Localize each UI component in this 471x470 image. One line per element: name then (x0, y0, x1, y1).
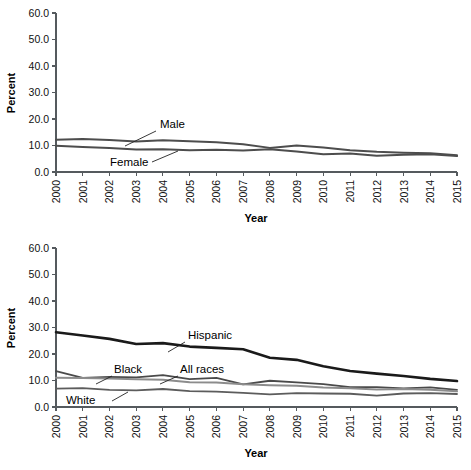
x-tick-label: 2014 (424, 180, 436, 204)
x-tick-label: 2015 (451, 180, 463, 204)
x-tick-label: 2000 (50, 415, 62, 439)
series-label-all-races: All races (180, 363, 224, 375)
x-tick-label: 2007 (237, 415, 249, 439)
x-tick-label: 2011 (344, 415, 356, 438)
x-tick-label: 2010 (317, 180, 329, 204)
chart-panel-by-sex: 0.010.020.030.040.050.060.02000200120022… (0, 0, 471, 235)
x-tick-label: 2004 (157, 180, 169, 204)
figure-two-line-charts: 0.010.020.030.040.050.060.02000200120022… (0, 0, 471, 470)
leader-line-white (112, 392, 128, 401)
x-tick-label: 2006 (210, 415, 222, 439)
x-tick-label: 2004 (157, 415, 169, 439)
x-tick-label: 2005 (184, 415, 196, 439)
x-tick-label: 2011 (344, 180, 356, 203)
x-tick-label: 2010 (317, 415, 329, 439)
x-axis-title: Year (244, 447, 268, 459)
x-tick-label: 2009 (291, 180, 303, 204)
x-tick-label: 2014 (424, 415, 436, 439)
series-line-male (56, 139, 457, 155)
series-group-top (56, 139, 457, 156)
y-tick-label: 50.0 (29, 33, 50, 45)
leader-line-female (152, 151, 178, 162)
x-tick-label: 2003 (130, 415, 142, 439)
x-tick-label: 2008 (264, 180, 276, 204)
x-tick-label: 2002 (103, 415, 115, 439)
axes-bottom: 0.010.020.030.040.050.060.02000200120022… (29, 242, 463, 439)
y-tick-label: 30.0 (29, 86, 50, 98)
x-tick-label: 2006 (210, 180, 222, 204)
series-label-female: Female (110, 156, 148, 168)
series-line-female (56, 146, 457, 156)
x-tick-label: 2012 (371, 180, 383, 204)
y-tick-label: 40.0 (29, 60, 50, 72)
x-axis-title: Year (244, 212, 268, 224)
leader-line-male (125, 131, 156, 146)
x-tick-label: 2000 (50, 180, 62, 204)
y-tick-label: 50.0 (29, 268, 50, 280)
annotation-group-bottom: HispanicBlackAll racesWhite (66, 329, 232, 406)
y-tick-label: 30.0 (29, 321, 50, 333)
series-label-black: Black (114, 363, 142, 375)
y-tick-label: 0.0 (34, 401, 49, 413)
y-tick-label: 40.0 (29, 295, 50, 307)
x-tick-label: 2001 (77, 415, 89, 439)
y-tick-label: 0.0 (34, 166, 49, 178)
y-tick-label: 10.0 (29, 139, 50, 151)
chart-panel-by-race: 0.010.020.030.040.050.060.02000200120022… (0, 235, 471, 470)
chart-svg-by-sex: 0.010.020.030.040.050.060.02000200120022… (0, 0, 471, 235)
y-tick-label: 60.0 (29, 7, 50, 19)
annotation-group-top: MaleFemale (110, 118, 185, 168)
x-tick-label: 2003 (130, 180, 142, 204)
y-tick-label: 20.0 (29, 348, 50, 360)
x-tick-label: 2001 (77, 180, 89, 204)
y-tick-label: 60.0 (29, 242, 50, 254)
series-label-male: Male (160, 118, 185, 130)
x-tick-label: 2002 (103, 180, 115, 204)
chart-svg-by-race: 0.010.020.030.040.050.060.02000200120022… (0, 235, 471, 470)
series-label-white: White (66, 394, 95, 406)
x-tick-label: 2008 (264, 415, 276, 439)
x-tick-label: 2007 (237, 180, 249, 204)
x-tick-label: 2013 (398, 180, 410, 204)
x-tick-label: 2015 (451, 415, 463, 439)
series-label-hispanic: Hispanic (188, 329, 232, 341)
y-axis-title: Percent (5, 72, 17, 113)
y-axis-title: Percent (5, 307, 17, 348)
x-tick-label: 2009 (291, 415, 303, 439)
x-tick-label: 2005 (184, 180, 196, 204)
y-tick-label: 10.0 (29, 374, 50, 386)
y-tick-label: 20.0 (29, 113, 50, 125)
x-tick-label: 2012 (371, 415, 383, 439)
axes-top: 0.010.020.030.040.050.060.02000200120022… (29, 7, 463, 204)
x-tick-label: 2013 (398, 415, 410, 439)
